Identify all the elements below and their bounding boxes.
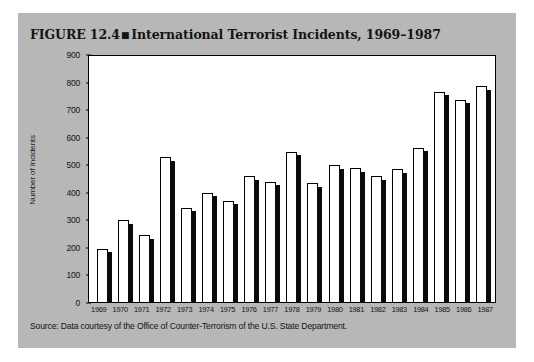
figure-panel: FIGURE 12.4■International Terrorist Inci… [18,13,516,348]
bar-slot [450,56,471,302]
bar-slot [408,56,429,302]
bar-1976 [244,176,255,302]
x-tick-label: 1974 [195,305,216,314]
bar-slot [92,56,113,302]
x-tick-label: 1982 [367,305,388,314]
x-axis-labels: 1969197019711972197319741975197619771978… [88,305,496,314]
bar-slot [239,56,260,302]
y-tick-label: 100 [66,270,80,280]
x-tick-label: 1986 [453,305,474,314]
y-tick-label: 500 [66,160,80,170]
x-tick-label: 1970 [109,305,130,314]
bar-1977 [265,182,276,302]
bar-slot [471,56,492,302]
bar-1983 [392,169,403,302]
bar-slot [366,56,387,302]
x-tick-label: 1977 [260,305,281,314]
bar-slot [302,56,323,302]
x-tick-label: 1979 [303,305,324,314]
bar-1981 [350,168,361,302]
y-tick-label: 700 [66,105,80,115]
x-tick-label: 1969 [88,305,109,314]
bar-1979 [307,183,318,302]
y-tick-label: 400 [66,188,80,198]
bar-1974 [202,193,213,302]
bar-slot [218,56,239,302]
bar-1987 [476,86,487,302]
bar-slot [176,56,197,302]
bar-1984 [413,148,424,302]
bar-1973 [181,208,192,302]
y-tick-label: 0 [75,298,80,308]
x-tick-label: 1980 [324,305,345,314]
bar-1972 [160,157,171,302]
x-tick-label: 1971 [131,305,152,314]
x-tick-label: 1975 [217,305,238,314]
bar-1970 [118,220,129,302]
bar-slot [387,56,408,302]
figure-title: FIGURE 12.4■International Terrorist Inci… [30,27,441,42]
bar-slot [134,56,155,302]
bar-slot [324,56,345,302]
bar-1971 [139,235,150,302]
x-tick-label: 1973 [174,305,195,314]
x-tick-label: 1984 [410,305,431,314]
x-tick-label: 1978 [281,305,302,314]
bar-slot [260,56,281,302]
bar-series [89,56,495,302]
x-tick-label: 1981 [346,305,367,314]
x-tick-label: 1972 [152,305,173,314]
bar-1985 [434,92,445,302]
y-axis-title: Number of Incidents [28,55,42,285]
bar-1978 [286,152,297,302]
x-tick-label: 1987 [474,305,495,314]
figure-title-text: International Terrorist Incidents, 1969–… [131,27,440,42]
bar-chart: Number of Incidents 01002003004005006007… [56,55,496,303]
source-note: Source: Data courtesy of the Office of C… [30,321,347,331]
bar-1975 [223,201,234,302]
y-tick-label: 900 [66,50,80,60]
bar-slot [113,56,134,302]
bar-1982 [371,176,382,302]
figure-number: FIGURE 12.4 [30,27,120,42]
y-tick-label: 200 [66,243,80,253]
y-axis-ticks: 0100200300400500600700800900 [56,55,86,303]
y-tick-label: 300 [66,215,80,225]
plot-area [88,55,496,303]
bar-1986 [455,100,466,302]
y-tick-label: 600 [66,133,80,143]
y-tick-label: 800 [66,78,80,88]
x-tick-label: 1983 [389,305,410,314]
bar-1969 [97,249,108,302]
square-bullet-icon: ■ [120,30,131,40]
x-tick-label: 1976 [238,305,259,314]
bar-slot [281,56,302,302]
x-tick-label: 1985 [432,305,453,314]
bar-slot [429,56,450,302]
bar-slot [155,56,176,302]
bar-slot [197,56,218,302]
bar-1980 [329,165,340,302]
bar-slot [345,56,366,302]
